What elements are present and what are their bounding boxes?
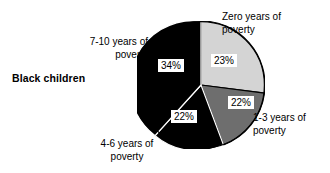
pie-svg <box>137 21 265 149</box>
slice-value-four-to-six-years: 22% <box>171 110 197 123</box>
slice-label-four-to-six-years: 4-6 years of poverty <box>82 138 172 163</box>
slice-label-zero-years: Zero years of poverty <box>222 11 322 36</box>
slice-value-seven-to-ten-years: 34% <box>158 59 184 72</box>
pie-graphic <box>137 21 265 149</box>
pie-chart-figure: Black children 23% 22% 22% 34% Zero year… <box>0 0 330 173</box>
slice-label-one-to-three-years: 1-3 years of poverty <box>253 112 329 137</box>
slice-value-one-to-three-years: 22% <box>228 96 254 109</box>
chart-title: Black children <box>12 72 120 84</box>
slice-label-seven-to-ten-years: 7-10 years of poverty <box>62 36 148 61</box>
slice-value-zero-years: 23% <box>211 54 237 67</box>
